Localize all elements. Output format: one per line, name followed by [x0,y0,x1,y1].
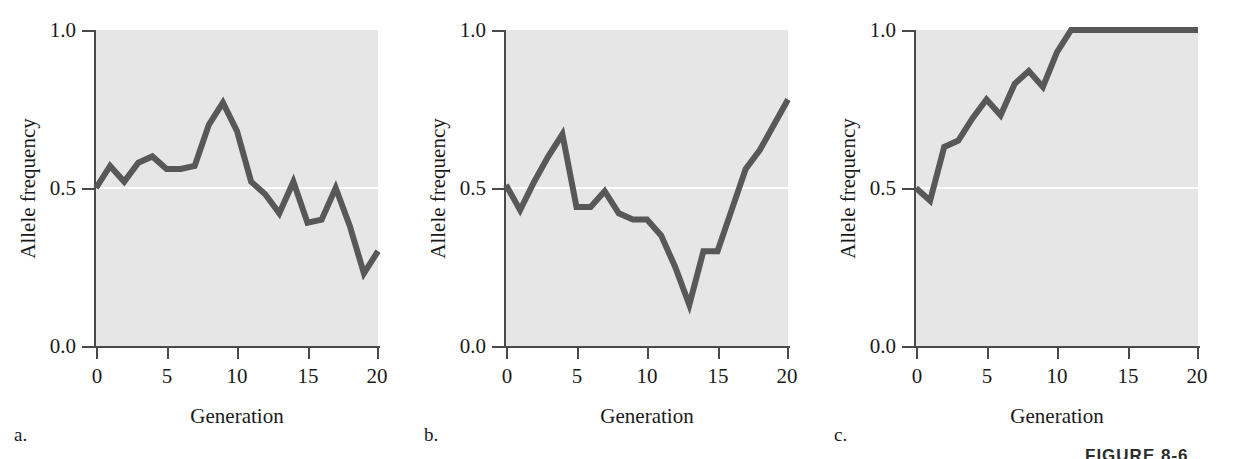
x-label-15: 15 [708,364,729,389]
x-tick-15 [1128,348,1130,359]
x-label-10: 10 [637,364,658,389]
x-tick-5 [167,348,169,359]
x-axis-title: Generation [916,404,1198,429]
x-tick-15 [308,348,310,359]
plot-area-b: 1.0 0.5 0.0 0 5 10 15 20 [506,30,788,346]
y-label-0.5: 0.5 [460,176,486,201]
panel-c: Allele frequency 1.0 0.5 0.0 0 5 10 15 2… [820,0,1240,459]
x-tick-20 [377,348,379,359]
x-axis-title: Generation [96,404,378,429]
x-tick-0 [916,348,918,359]
y-tick-0.0 [492,346,504,348]
y-tick-1.0 [82,30,94,32]
allele-frequency-drift-figure: Allele frequency 1.0 0.5 0.0 0 5 10 15 2… [0,0,1240,459]
y-label-1.0: 1.0 [50,18,76,43]
x-label-0: 0 [502,364,513,389]
y-label-0.5: 0.5 [870,176,896,201]
series-line-a [96,30,378,346]
y-label-0.5: 0.5 [50,176,76,201]
y-tick-0.5 [902,188,914,190]
y-label-1.0: 1.0 [870,18,896,43]
x-label-20: 20 [777,364,798,389]
y-label-0.0: 0.0 [870,334,896,359]
x-tick-10 [237,348,239,359]
x-label-5: 5 [572,364,583,389]
x-label-15: 15 [1118,364,1139,389]
x-label-20: 20 [367,364,388,389]
panel-letter-b: b. [424,424,438,446]
panel-a: Allele frequency 1.0 0.5 0.0 0 5 10 15 2… [0,0,410,459]
x-label-10: 10 [227,364,248,389]
x-label-15: 15 [298,364,319,389]
x-tick-10 [647,348,649,359]
y-label-0.0: 0.0 [460,334,486,359]
y-tick-0.5 [82,188,94,190]
y-label-1.0: 1.0 [460,18,486,43]
x-label-0: 0 [92,364,103,389]
x-tick-0 [96,348,98,359]
x-tick-20 [787,348,789,359]
y-tick-1.0 [492,30,504,32]
plot-area-a: 1.0 0.5 0.0 0 5 10 15 20 [96,30,378,346]
y-axis-title: Allele frequency [834,30,862,346]
y-tick-0.5 [492,188,504,190]
series-line-c [916,30,1198,346]
panel-letter-a: a. [14,424,27,446]
x-label-5: 5 [162,364,173,389]
y-label-0.0: 0.0 [50,334,76,359]
x-label-20: 20 [1187,364,1208,389]
plot-area-c: 1.0 0.5 0.0 0 5 10 15 20 [916,30,1198,346]
x-tick-0 [506,348,508,359]
y-axis-title: Allele frequency [424,30,452,346]
figure-caption-partial: FIGURE 8-6 [1085,446,1189,459]
x-label-10: 10 [1047,364,1068,389]
x-axis-title: Generation [506,404,788,429]
panel-letter-c: c. [834,424,847,446]
x-tick-20 [1197,348,1199,359]
y-tick-1.0 [902,30,914,32]
panel-b: Allele frequency 1.0 0.5 0.0 0 5 10 15 2… [410,0,820,459]
x-label-5: 5 [982,364,993,389]
y-tick-0.0 [82,346,94,348]
x-tick-5 [987,348,989,359]
x-tick-5 [577,348,579,359]
series-line-b [506,30,788,346]
x-tick-10 [1057,348,1059,359]
y-axis-title: Allele frequency [14,30,42,346]
x-tick-15 [718,348,720,359]
y-tick-0.0 [902,346,914,348]
x-label-0: 0 [912,364,923,389]
